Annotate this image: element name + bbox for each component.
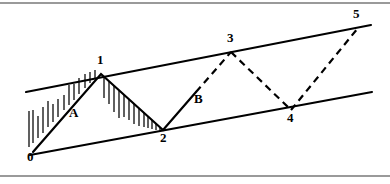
segment-3-4 — [231, 52, 291, 110]
wave-label-a: A — [69, 106, 78, 119]
hatching-zone-0-1 — [29, 70, 95, 147]
upper-channel-line — [26, 25, 371, 92]
wave-path-dashed — [196, 28, 358, 110]
point-label-2: 2 — [160, 131, 167, 144]
point-label-3: 3 — [227, 31, 234, 44]
figure-root: 0 1 2 3 4 5 A B — [0, 0, 390, 184]
point-label-1: 1 — [97, 53, 104, 66]
point-label-5: 5 — [353, 7, 360, 20]
segment-4-5 — [291, 28, 358, 110]
point-label-4: 4 — [287, 111, 294, 124]
wave-label-b: B — [194, 92, 203, 105]
point-label-0: 0 — [27, 150, 34, 163]
